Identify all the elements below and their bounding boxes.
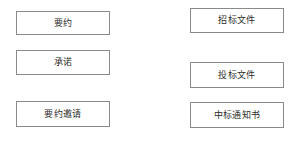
node-acceptance[interactable]: 承诺 <box>16 50 110 75</box>
node-offer-label: 要约 <box>54 19 73 28</box>
node-award-notice-label: 中标通知书 <box>214 111 261 120</box>
node-bid-document[interactable]: 投标文件 <box>190 62 284 88</box>
node-bid-document-label: 投标文件 <box>218 71 256 80</box>
node-offer[interactable]: 要约 <box>16 11 110 35</box>
node-invitation-to-offer-label: 要约邀请 <box>44 110 82 119</box>
node-invitation-to-offer[interactable]: 要约邀请 <box>16 101 110 127</box>
node-tender-document-label: 招标文件 <box>218 16 256 25</box>
node-acceptance-label: 承诺 <box>54 58 73 67</box>
node-tender-document[interactable]: 招标文件 <box>190 8 284 33</box>
node-award-notice[interactable]: 中标通知书 <box>190 102 284 128</box>
diagram-canvas: 要约 承诺 要约邀请 招标文件 投标文件 中标通知书 <box>0 0 298 141</box>
